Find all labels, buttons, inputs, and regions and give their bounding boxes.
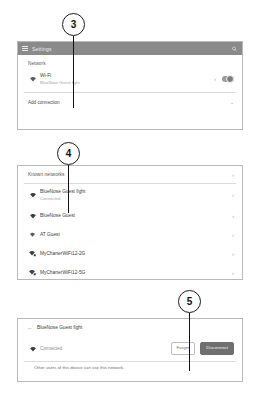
list-item[interactable]: MyCharterWiFi12-2G › — [18, 244, 242, 263]
wifi-lock-icon — [28, 250, 37, 257]
network-detail-panel: ← BlueNose Guest fight Connected Forget … — [17, 318, 243, 382]
connection-status: Connected — [37, 346, 171, 351]
settings-titlebar: Settings — [18, 42, 242, 55]
search-icon[interactable] — [232, 46, 237, 51]
list-item-text: MyCharterWiFi12-5G — [37, 270, 228, 276]
chevron-right-icon[interactable]: › — [214, 76, 216, 82]
chevron-right-icon[interactable]: › — [232, 270, 234, 276]
callout-leader-line — [68, 165, 70, 213]
chevron-right-icon[interactable]: › — [232, 251, 234, 257]
network-name: MyCharterWiFi12-2G — [40, 251, 228, 257]
settings-title: Settings — [32, 46, 52, 52]
list-item[interactable]: MyCharterWiFi12-5G › — [18, 263, 242, 282]
network-name: MyCharterWiFi12-5G — [40, 270, 228, 276]
network-section-label: Network — [18, 55, 242, 66]
add-connection-row[interactable]: Add connection ⌄ — [18, 93, 242, 111]
chevron-right-icon[interactable]: › — [232, 232, 234, 238]
network-detail-header: ← BlueNose Guest fight — [18, 319, 242, 336]
network-detail-footer-note: Other users of this device can use this … — [24, 361, 236, 370]
network-name: BlueNose Guest — [40, 213, 228, 219]
network-name: AT Guest — [40, 232, 228, 238]
list-item-text: MyCharterWiFi12-2G — [37, 251, 228, 257]
hamburger-menu-icon[interactable] — [22, 46, 28, 51]
network-detail-title: BlueNose Guest fight — [34, 325, 82, 330]
callout-leader-line — [73, 36, 75, 108]
settings-window: Settings Network Wi-Fi BlueNose Guest fi… — [17, 41, 243, 130]
network-detail-status-row: Connected Forget Disconnect — [18, 336, 242, 361]
wifi-toggle[interactable] — [222, 76, 234, 82]
list-item[interactable]: BlueNose Guest fight Connected › — [18, 184, 242, 206]
callout-3: 3 — [62, 13, 85, 108]
callout-number: 4 — [57, 142, 80, 165]
network-section: Network Wi-Fi BlueNose Guest fight › Add… — [18, 55, 242, 111]
callout-4: 4 — [57, 142, 80, 213]
callout-leader-line — [189, 313, 191, 371]
chevron-right-icon[interactable]: › — [232, 213, 234, 219]
list-item-text: AT Guest — [37, 232, 228, 238]
known-networks-header[interactable]: Known networks › — [18, 166, 242, 183]
callout-number: 5 — [178, 290, 201, 313]
chevron-down-icon[interactable]: ⌄ — [230, 99, 234, 105]
list-item[interactable]: AT Guest › — [18, 225, 242, 244]
wifi-icon — [28, 346, 37, 352]
callout-number: 3 — [62, 13, 85, 36]
wifi-icon — [28, 213, 37, 219]
known-networks-panel: Known networks › BlueNose Guest fight Co… — [17, 165, 243, 280]
callout-5: 5 — [178, 290, 201, 371]
wifi-lock-icon — [28, 269, 37, 276]
add-connection-label: Add connection — [28, 100, 226, 105]
chevron-right-icon[interactable]: › — [232, 192, 234, 198]
back-arrow-icon[interactable]: ← — [27, 325, 34, 331]
wifi-icon — [28, 232, 37, 237]
wifi-icon — [28, 192, 37, 198]
list-item-text: BlueNose Guest — [37, 213, 228, 219]
wifi-icon — [28, 76, 37, 82]
wifi-row[interactable]: Wi-Fi BlueNose Guest fight › — [18, 66, 242, 92]
disconnect-button[interactable]: Disconnect — [200, 342, 234, 354]
wifi-toggle-knob — [226, 75, 234, 83]
list-item[interactable]: BlueNose Guest › — [18, 206, 242, 225]
chevron-right-icon[interactable]: › — [232, 172, 234, 178]
